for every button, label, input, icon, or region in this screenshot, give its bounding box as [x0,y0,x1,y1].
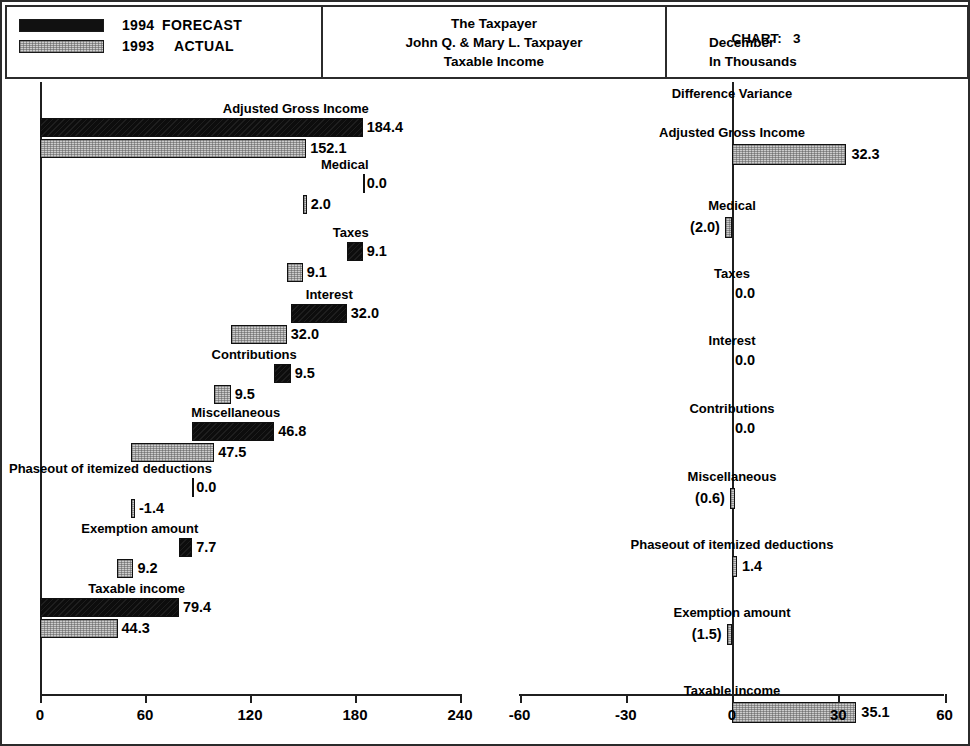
right-chart-category-label: Medical [708,198,756,213]
chart-period: December [709,35,774,50]
left-chart-category-label: Adjusted Gross Income [223,101,369,116]
right-chart-bar [727,624,732,645]
right-chart-tick-label: 60 [936,706,953,723]
left-chart-value-forecast: 7.7 [196,539,216,555]
right-chart-value-label: (0.6) [695,490,725,506]
left-chart-category-label: Miscellaneous [191,405,280,420]
report-title-line-3: Taxable Income [323,54,665,69]
right-chart-tick-label: 0 [728,706,736,723]
left-chart-value-actual: 2.0 [311,196,331,212]
right-chart-tick [732,694,734,703]
left-chart-bar-actual [214,385,231,404]
left-chart-bar-actual [117,559,133,578]
right-chart-value-label: 1.4 [742,558,762,574]
left-chart-value-forecast: 32.0 [351,305,379,321]
left-chart-bar-forecast [40,118,363,137]
left-chart-value-actual: 32.0 [291,326,319,342]
right-chart-heading: Difference Variance [672,86,793,101]
left-chart-tick [145,694,147,703]
left-chart-bar-forecast [40,598,179,617]
legend-row-actual: 1993 [19,38,154,54]
report-title-line-2: John Q. & Mary L. Taxpayer [323,35,665,50]
right-chart-bar [725,217,732,238]
left-chart-category-label: Medical [321,157,369,172]
left-chart-tick-label: 0 [36,706,44,723]
chart-units: In Thousands [709,54,797,69]
chart-number: 3 [793,31,801,46]
left-chart-tick-label: 240 [447,706,472,723]
left-chart-bar-actual [303,195,307,214]
right-chart-value-label: 0.0 [735,285,755,301]
left-chart-bar-actual [40,619,118,638]
left-chart-value-actual: 9.2 [137,560,157,576]
left-chart-category-label: Contributions [212,347,297,362]
left-chart-value-forecast: 9.1 [367,243,387,259]
left-chart-bar-forecast [179,538,192,557]
left-chart-tick [355,694,357,703]
right-chart-value-label: 35.1 [861,704,889,720]
left-chart-bar-forecast [363,174,365,193]
left-chart-tick-label: 60 [137,706,154,723]
right-chart-category-label: Taxes [714,266,750,281]
right-chart-tick-label: -30 [615,706,637,723]
left-chart-bar-forecast [347,242,363,261]
right-chart-tick-label: 30 [830,706,847,723]
left-chart-tick-label: 120 [237,706,262,723]
left-chart-tick [40,694,42,703]
right-chart-value-label: (1.5) [692,626,722,642]
left-chart-tick [460,694,462,703]
right-chart-category-label: Adjusted Gross Income [659,125,805,140]
left-chart-bar-actual [131,443,214,462]
left-chart-value-actual: 44.3 [122,620,150,636]
left-chart-waterfall: Adjusted Gross Income184.4152.1Medical0.… [7,82,485,702]
chart-page: 1994 FORECAST 1993 ACTUAL The Taxpayer J… [0,0,970,746]
right-chart-bar [732,556,737,577]
right-chart-value-label: 0.0 [735,420,755,436]
chart-info-box: CHART: 3 December In Thousands [667,5,969,79]
legend-kind-actual: ACTUAL [174,38,234,54]
right-chart-value-label: (2.0) [690,219,720,235]
left-chart-value-actual: 152.1 [310,140,346,156]
report-title-line-1: The Taxpayer [323,16,665,31]
left-chart-bar-forecast [192,478,194,497]
right-chart-value-label: 0.0 [735,352,755,368]
right-chart-value-label: 32.3 [851,146,879,162]
right-chart-category-label: Miscellaneous [688,469,777,484]
right-chart-bar [732,144,846,165]
legend-year-1994: 1994 [122,17,154,33]
left-chart-bar-actual [131,499,135,518]
left-chart-bar-actual [231,325,287,344]
right-chart-category-label: Interest [709,333,756,348]
left-chart-value-forecast: 79.4 [183,599,211,615]
left-chart-value-actual: 47.5 [218,444,246,460]
title-box: The Taxpayer John Q. & Mary L. Taxpayer … [323,5,667,79]
right-chart-tick-label: -60 [509,706,531,723]
right-chart-category-label: Contributions [689,401,774,416]
right-chart-zero-axis [732,82,734,694]
left-chart-value-actual: -1.4 [139,500,164,516]
legend-year-1993: 1993 [122,38,154,54]
legend-kind-forecast: FORECAST [162,17,242,33]
legend-swatch-1993 [19,40,104,53]
right-chart-bar [730,488,735,509]
left-chart-value-forecast: 184.4 [367,119,403,135]
left-chart-value-actual: 9.1 [307,264,327,280]
left-chart-tick [250,694,252,703]
left-chart-bar-forecast [274,364,291,383]
legend-swatch-1994 [19,19,104,32]
left-chart-value-forecast: 0.0 [196,479,216,495]
right-chart-tick [626,694,628,703]
left-chart-category-label: Taxable income [88,581,185,596]
left-chart-value-forecast: 46.8 [278,423,306,439]
right-chart-tick [838,694,840,703]
left-chart-category-label: Interest [306,287,353,302]
left-chart-category-label: Exemption amount [81,521,198,536]
left-chart-bar-forecast [192,422,274,441]
left-chart-category-label: Taxes [333,225,369,240]
left-chart-category-label: Phaseout of itemized deductions [9,461,212,476]
legend-row-forecast: 1994 [19,17,154,33]
right-chart-category-label: Exemption amount [673,605,790,620]
left-chart-tick-label: 180 [342,706,367,723]
right-chart-variance: Difference Variance Adjusted Gross Incom… [489,82,967,702]
right-chart-tick [520,694,522,703]
